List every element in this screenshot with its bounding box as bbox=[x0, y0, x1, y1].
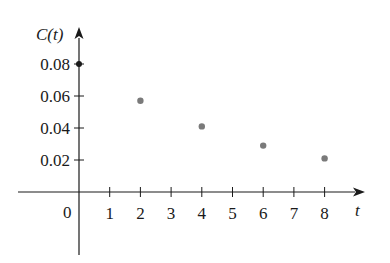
data-point bbox=[260, 142, 266, 148]
x-axis-label: t bbox=[355, 201, 361, 220]
x-tick-label: 5 bbox=[228, 204, 237, 223]
data-points bbox=[76, 61, 328, 162]
x-tick-label: 8 bbox=[320, 204, 329, 223]
chart: 12345678 0.020.040.060.08 C(t) t 0 bbox=[0, 0, 390, 263]
data-point bbox=[76, 61, 82, 67]
y-axis-label: C(t) bbox=[36, 25, 64, 44]
y-tick-label: 0.02 bbox=[40, 151, 70, 170]
x-tick-label: 6 bbox=[259, 204, 268, 223]
data-point bbox=[321, 155, 327, 161]
y-tick-label: 0.04 bbox=[40, 119, 70, 138]
x-tick-label: 3 bbox=[167, 204, 176, 223]
y-tick-label: 0.08 bbox=[40, 55, 70, 74]
x-tick-label: 1 bbox=[105, 204, 114, 223]
data-point bbox=[137, 98, 143, 104]
x-tick-label: 7 bbox=[290, 204, 299, 223]
origin-label: 0 bbox=[63, 203, 72, 222]
y-ticks: 0.020.040.060.08 bbox=[40, 55, 84, 170]
data-point bbox=[199, 123, 205, 129]
x-tick-label: 2 bbox=[136, 204, 145, 223]
x-tick-label: 4 bbox=[198, 204, 207, 223]
y-tick-label: 0.06 bbox=[40, 87, 70, 106]
y-axis-arrow-icon bbox=[75, 27, 84, 39]
